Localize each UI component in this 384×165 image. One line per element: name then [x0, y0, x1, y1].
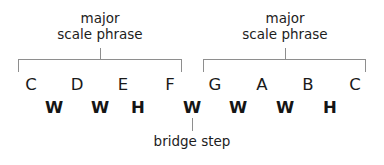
note-letter: B: [302, 76, 313, 94]
step-letter: H: [323, 99, 337, 117]
bridge-step-leader-line: [192, 118, 193, 131]
step-letter: W: [45, 99, 63, 117]
step-letter: W: [276, 99, 294, 117]
phrase-label-right-line1: major: [242, 10, 327, 26]
bridge-step-caption: bridge step: [154, 133, 231, 149]
step-letter-bridge: W: [183, 99, 201, 117]
bracket-tick-left: [100, 48, 101, 59]
note-letter: E: [118, 76, 128, 94]
note-letter: A: [256, 76, 267, 94]
note-letter: D: [71, 76, 84, 94]
step-letter: W: [91, 99, 109, 117]
phrase-bracket-right: [203, 59, 366, 72]
step-letter: H: [131, 99, 145, 117]
note-letter: G: [209, 76, 222, 94]
note-letter: C: [349, 76, 361, 94]
phrase-label-left: major scale phrase: [57, 10, 142, 42]
note-letter: F: [165, 76, 175, 94]
phrase-label-right-line2: scale phrase: [242, 26, 327, 42]
phrase-label-right: major scale phrase: [242, 10, 327, 42]
bracket-tick-right: [285, 48, 286, 59]
scale-phrase-diagram: major scale phrase major scale phrase C …: [0, 0, 384, 165]
note-letter: C: [25, 76, 37, 94]
phrase-label-left-line2: scale phrase: [57, 26, 142, 42]
phrase-bracket-left: [18, 59, 182, 72]
step-letter: W: [229, 99, 247, 117]
phrase-label-left-line1: major: [57, 10, 142, 26]
